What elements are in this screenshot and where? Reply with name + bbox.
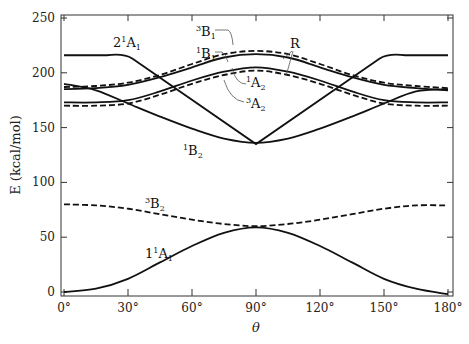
y-tick-label: 0: [47, 285, 55, 299]
label-1A2: 1A2: [246, 75, 266, 92]
label-3A2: 3A2: [246, 96, 266, 113]
y-tick-label: 50: [40, 230, 55, 244]
x-tick-label: 0°: [57, 301, 71, 315]
y-tick-label: 250: [32, 11, 55, 25]
plot-frame: [61, 15, 453, 296]
label-R: R: [290, 36, 301, 51]
x-tick-label: 30°: [117, 301, 138, 315]
leader-3A2: [224, 80, 244, 102]
potential-energy-chart: 0°30°60°90°120°150°180° 050100150200250 …: [0, 0, 469, 344]
x-axis-title: θ: [252, 320, 260, 335]
leader-3B1: [215, 30, 233, 45]
y-tick-label: 200: [32, 66, 55, 80]
x-tick-label: 150°: [370, 301, 399, 315]
y-tick-label: 150: [32, 121, 55, 135]
label-2-1A1: 21A1: [113, 35, 141, 52]
curve: [64, 227, 448, 294]
x-tick-label: 60°: [181, 301, 202, 315]
x-axis-ticks: 0°30°60°90°120°150°180°: [57, 15, 462, 315]
label-3B1: 3B1: [196, 24, 216, 41]
x-tick-label: 90°: [245, 301, 266, 315]
x-tick-label: 120°: [306, 301, 335, 315]
label-1B2: 1B2: [183, 143, 203, 160]
y-tick-label: 100: [32, 175, 55, 189]
curve: [64, 84, 448, 143]
y-axis-title: E (kcal/mol): [8, 115, 23, 195]
x-tick-label: 180°: [434, 301, 463, 315]
label-3B2: 3B2: [145, 196, 165, 213]
label-1B1: 1B1: [196, 46, 216, 63]
curve: [64, 204, 448, 226]
label-1A1: 11A1: [145, 246, 173, 263]
